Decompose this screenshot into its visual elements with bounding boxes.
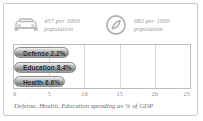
infographic-panel: 437 per 1000 population 682 per 1000 pop…: [3, 3, 198, 116]
stats-row: 437 per 1000 population 682 per 1000 pop…: [4, 8, 199, 42]
car-icon: [13, 12, 39, 38]
axis-tick-5: 5: [48, 90, 51, 97]
stat-telephones-text: 682 per 1000 population: [134, 17, 170, 32]
stat-telephones-line2: population: [134, 25, 170, 33]
axis-tick-0: 0: [13, 90, 16, 97]
bar-row: Education 8.4%: [14, 60, 76, 75]
chart-caption: Defense, Health, Education spending as %…: [14, 102, 194, 109]
bar-row: Defense 2.2%: [14, 45, 69, 60]
bar-health: Health 6.6%: [14, 76, 65, 87]
stat-telephones: 682 per 1000 population: [101, 8, 199, 42]
bar-label-defense: Defense 2.2%: [23, 49, 66, 56]
stat-telephones-line1: 682 per 1000: [134, 17, 170, 24]
bar-defense: Defense 2.2%: [14, 47, 69, 58]
telephone-icon: [103, 12, 129, 38]
axis-tick-20: 20: [152, 90, 158, 97]
chart-x-axis: 0510152025: [13, 90, 191, 99]
bar-label-education: Education 8.4%: [23, 64, 72, 71]
chart-bars: Defense 2.2%Education 8.4%Health 6.6%: [14, 45, 190, 88]
stat-vehicles-line1: 437 per 1000: [44, 17, 80, 24]
bar-education: Education 8.4%: [14, 62, 76, 73]
stat-vehicles: 437 per 1000 population: [4, 8, 101, 42]
stat-vehicles-text: 437 per 1000 population: [44, 17, 80, 32]
bar-chart: Defense 2.2%Education 8.4%Health 6.6%: [13, 44, 191, 89]
axis-tick-25: 25: [184, 90, 190, 97]
axis-tick-10: 10: [81, 90, 87, 97]
axis-tick-15: 15: [116, 90, 122, 97]
bar-label-health: Health 6.6%: [23, 78, 60, 85]
stat-vehicles-line2: population: [44, 25, 80, 33]
bar-row: Health 6.6%: [14, 74, 65, 89]
